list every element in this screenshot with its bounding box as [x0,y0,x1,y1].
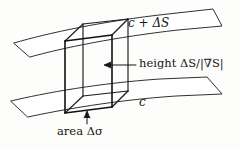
area-arrow-head [84,111,90,118]
level-surface-diagram: c + ΔS c height ΔS/|∇S| area Δσ [0,0,240,149]
area-arrow-icon [84,111,90,124]
upper-surface-outline [14,9,222,57]
upper-level-surface [14,9,222,57]
height-arrow-icon [104,62,136,68]
box-height-label: height ΔS/|∇S| [139,58,224,70]
lower-surface-label: c [139,96,146,108]
diagram-canvas [0,0,240,149]
lower-surface-outline [11,77,222,117]
upper-surface-label: c + ΔS [128,17,169,29]
box-area-label: area Δσ [57,126,103,138]
height-arrow-head [104,62,111,68]
lower-level-surface [11,77,222,117]
